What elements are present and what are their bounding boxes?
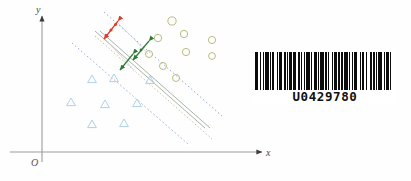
- data-point-triangle: [133, 99, 142, 107]
- decision-hyperplane: [100, 31, 210, 128]
- data-point-circle: [146, 51, 153, 58]
- barcode-label: U0429780: [255, 52, 395, 114]
- margin-arrow-red: [104, 21, 118, 39]
- data-point-triangle: [101, 100, 110, 108]
- margin-line-upper: [104, 12, 222, 116]
- data-point-circle: [160, 63, 167, 70]
- svm-margin-chart: y x O: [0, 0, 275, 181]
- data-point-triangle: [88, 75, 97, 83]
- data-point-triangle: [88, 120, 97, 128]
- data-point-triangle: [67, 98, 76, 106]
- scatter-circles: [146, 17, 216, 82]
- data-point-triangle: [120, 119, 129, 127]
- data-point-circle: [168, 17, 176, 25]
- data-point-triangle: [110, 74, 119, 82]
- data-point-circle: [182, 48, 189, 55]
- figure-root: y x O: [0, 0, 411, 181]
- margin-line-circle-side: [95, 36, 212, 139]
- data-point-circle: [209, 53, 216, 60]
- data-point-circle: [154, 34, 161, 41]
- axis-group: y x O: [10, 4, 271, 168]
- scatter-triangles: [67, 74, 155, 128]
- data-point-circle: [180, 30, 187, 37]
- data-point-circle: [208, 36, 215, 43]
- y-axis-label: y: [35, 4, 41, 15]
- x-axis-label: x: [265, 147, 271, 158]
- barcode-number: U0429780: [255, 90, 395, 104]
- origin-label: O: [31, 157, 38, 168]
- bracket-red-top: [117, 22, 136, 41]
